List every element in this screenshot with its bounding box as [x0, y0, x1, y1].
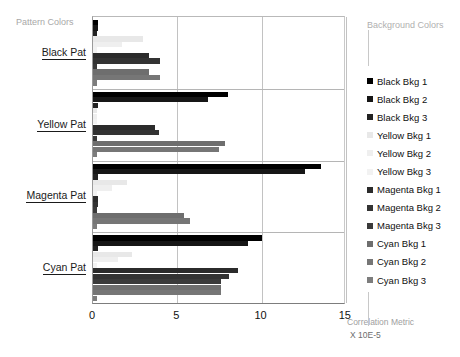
- legend-swatch-icon: [367, 223, 373, 229]
- bar-cyan-pat-yellow-bkg-1: [93, 252, 132, 257]
- bar-magenta-pat-cyan-bkg-3: [93, 224, 97, 229]
- legend-divider-top: [368, 30, 369, 66]
- category-label-text: Cyan Pat: [43, 261, 86, 275]
- bar-black-pat-black-bkg-1: [93, 20, 98, 25]
- legend-swatch-icon: [367, 241, 373, 247]
- y-axis-title: Pattern Colors: [16, 17, 74, 27]
- legend-item-yellow-bkg-2[interactable]: Yellow Bkg 2: [367, 144, 459, 162]
- legend-item-magenta-bkg-1[interactable]: Magenta Bkg 1: [367, 181, 459, 199]
- bar-yellow-pat-yellow-bkg-3: [93, 119, 97, 124]
- bar-cyan-pat-cyan-bkg-3: [93, 296, 97, 301]
- legend-item-magenta-bkg-2[interactable]: Magenta Bkg 2: [367, 199, 459, 217]
- bar-cyan-pat-black-bkg-3: [93, 246, 98, 251]
- bar-cyan-pat-cyan-bkg-2: [93, 290, 221, 295]
- bar-magenta-pat-cyan-bkg-2: [93, 218, 190, 223]
- bar-magenta-pat-cyan-bkg-1: [93, 213, 184, 218]
- bar-cyan-pat-cyan-bkg-1: [93, 285, 221, 290]
- legend-swatch-icon: [367, 187, 373, 193]
- x-axis-unit: X 10E-5: [350, 330, 381, 340]
- bar-magenta-pat-magenta-bkg-3: [93, 207, 97, 212]
- bar-black-pat-black-bkg-2: [93, 25, 98, 30]
- category-label-text: Magenta Pat: [26, 189, 86, 203]
- legend-item-label: Magenta Bkg 2: [377, 202, 441, 213]
- legend-item-black-bkg-1[interactable]: Black Bkg 1: [367, 72, 459, 90]
- bar-magenta-pat-yellow-bkg-1: [93, 180, 127, 185]
- legend-swatch-icon: [367, 114, 373, 120]
- legend-swatch-icon: [367, 132, 373, 138]
- legend-item-black-bkg-2[interactable]: Black Bkg 2: [367, 90, 459, 108]
- x-axis-title: Correlation Metric: [347, 317, 414, 327]
- category-label-yellow-pat: Yellow Pat: [0, 118, 86, 130]
- legend-item-label: Cyan Bkg 3: [377, 275, 426, 286]
- legend-item-cyan-bkg-2[interactable]: Cyan Bkg 2: [367, 253, 459, 271]
- bar-magenta-pat-magenta-bkg-1: [93, 196, 98, 201]
- bar-yellow-pat-cyan-bkg-3: [93, 152, 97, 157]
- bar-yellow-pat-magenta-bkg-1: [93, 125, 155, 130]
- legend-item-label: Yellow Bkg 3: [377, 166, 431, 177]
- bar-black-pat-yellow-bkg-1: [93, 36, 143, 41]
- legend-item-label: Black Bkg 1: [377, 76, 427, 87]
- gridline-15: [346, 17, 347, 303]
- legend-swatch-icon: [367, 96, 373, 102]
- legend-swatch-icon: [367, 205, 373, 211]
- legend-item-label: Yellow Bkg 1: [377, 130, 431, 141]
- legend-item-label: Magenta Bkg 1: [377, 184, 441, 195]
- legend-item-label: Black Bkg 3: [377, 112, 427, 123]
- x-tick-0: 0: [72, 309, 112, 321]
- legend-swatch-icon: [367, 277, 373, 283]
- legend-title: Background Colors: [367, 20, 444, 30]
- legend-swatch-icon: [367, 150, 373, 156]
- legend-item-label: Magenta Bkg 3: [377, 220, 441, 231]
- x-tick-5: 5: [156, 309, 196, 321]
- bar-magenta-pat-black-bkg-3: [93, 174, 98, 179]
- bar-cyan-pat-magenta-bkg-2: [93, 274, 229, 279]
- bar-black-pat-magenta-bkg-3: [93, 64, 97, 69]
- legend-item-magenta-bkg-3[interactable]: Magenta Bkg 3: [367, 217, 459, 235]
- bars-layer: [93, 17, 345, 304]
- bar-cyan-pat-magenta-bkg-3: [93, 279, 221, 284]
- bar-black-pat-cyan-bkg-3: [93, 80, 97, 85]
- bar-yellow-pat-cyan-bkg-2: [93, 147, 219, 152]
- legend-swatch-icon: [367, 169, 373, 175]
- legend-item-label: Yellow Bkg 2: [377, 148, 431, 159]
- legend-item-label: Cyan Bkg 2: [377, 256, 426, 267]
- bar-black-pat-yellow-bkg-3: [93, 47, 97, 52]
- bar-yellow-pat-black-bkg-2: [93, 97, 208, 102]
- bar-magenta-pat-black-bkg-1: [93, 164, 321, 169]
- legend-divider-bottom: [368, 292, 369, 326]
- category-label-text: Black Pat: [42, 46, 86, 60]
- bar-black-pat-cyan-bkg-2: [93, 75, 160, 80]
- legend-item-black-bkg-3[interactable]: Black Bkg 3: [367, 108, 459, 126]
- legend-swatch-icon: [367, 259, 373, 265]
- bar-black-pat-yellow-bkg-2: [93, 42, 122, 47]
- bar-cyan-pat-magenta-bkg-1: [93, 268, 238, 273]
- bar-cyan-pat-black-bkg-2: [93, 241, 248, 246]
- bar-yellow-pat-black-bkg-3: [93, 103, 98, 108]
- x-tick-10: 10: [241, 309, 281, 321]
- bar-magenta-pat-yellow-bkg-3: [93, 191, 97, 196]
- bar-black-pat-black-bkg-3: [93, 31, 97, 36]
- bar-magenta-pat-yellow-bkg-2: [93, 185, 112, 190]
- legend-swatch-icon: [367, 78, 373, 84]
- legend-item-label: Black Bkg 2: [377, 94, 427, 105]
- legend-item-cyan-bkg-1[interactable]: Cyan Bkg 1: [367, 235, 459, 253]
- legend-item-cyan-bkg-3[interactable]: Cyan Bkg 3: [367, 271, 459, 289]
- bar-magenta-pat-black-bkg-2: [93, 169, 305, 174]
- bar-chart: Pattern Colors Black PatYellow PatMagent…: [0, 0, 460, 357]
- bar-yellow-pat-magenta-bkg-2: [93, 130, 159, 135]
- bar-yellow-pat-yellow-bkg-2: [93, 114, 97, 119]
- bar-cyan-pat-black-bkg-1: [93, 235, 262, 240]
- category-label-text: Yellow Pat: [37, 118, 86, 132]
- legend-item-yellow-bkg-1[interactable]: Yellow Bkg 1: [367, 126, 459, 144]
- bar-yellow-pat-yellow-bkg-1: [93, 108, 97, 113]
- bar-black-pat-magenta-bkg-2: [93, 58, 160, 63]
- bar-black-pat-cyan-bkg-1: [93, 69, 149, 74]
- bar-yellow-pat-magenta-bkg-3: [93, 136, 97, 141]
- bar-yellow-pat-black-bkg-1: [93, 92, 228, 97]
- legend-item-yellow-bkg-3[interactable]: Yellow Bkg 3: [367, 162, 459, 180]
- category-label-black-pat: Black Pat: [0, 46, 86, 58]
- bar-cyan-pat-yellow-bkg-2: [93, 257, 118, 262]
- category-label-cyan-pat: Cyan Pat: [0, 261, 86, 273]
- legend: Black Bkg 1Black Bkg 2Black Bkg 3Yellow …: [367, 72, 459, 289]
- bar-black-pat-magenta-bkg-1: [93, 53, 149, 58]
